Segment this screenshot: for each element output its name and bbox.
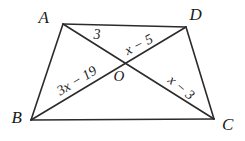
side-AB (31, 24, 63, 120)
vertex-label-C: C (222, 116, 234, 133)
segment-label-AO: 3 (94, 28, 101, 42)
point-label-O: O (114, 69, 125, 84)
side-AD (63, 24, 186, 27)
geometry-figure: A D B C O 3 x − 5 3x − 19 x − 3 (0, 0, 245, 141)
vertex-label-B: B (12, 109, 23, 126)
diagonal-BD (31, 27, 186, 120)
side-BC (31, 119, 214, 120)
side-DC (186, 27, 214, 119)
vertex-label-D: D (190, 6, 203, 23)
vertex-label-A: A (39, 9, 50, 26)
